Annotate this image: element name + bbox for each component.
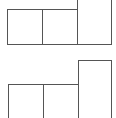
top-left-box: [7, 9, 43, 45]
top-middle-box: [42, 9, 78, 45]
bottom-middle-box: [43, 84, 79, 118]
top-tall-box: [77, 0, 112, 45]
bottom-tall-box: [78, 60, 112, 118]
bottom-left-box: [8, 84, 44, 118]
